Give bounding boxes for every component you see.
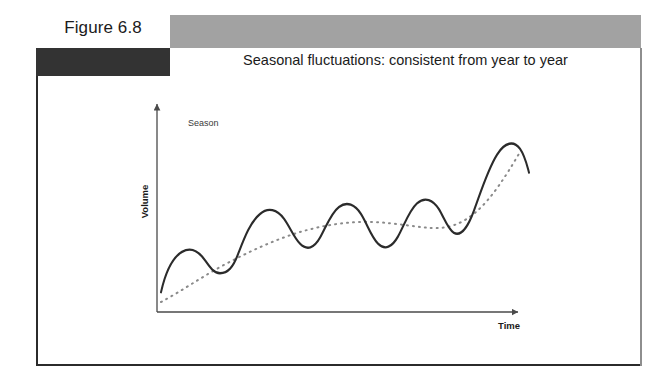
y-axis-label: Volume (139, 185, 150, 219)
seasonal-curve-series (161, 144, 529, 293)
season-annotation: Season (188, 118, 219, 128)
plot-area (0, 0, 672, 384)
x-axis-label: Time (498, 320, 520, 331)
figure-panel: Figure 6.8 Seasonal fluctuations: consis… (0, 0, 672, 384)
